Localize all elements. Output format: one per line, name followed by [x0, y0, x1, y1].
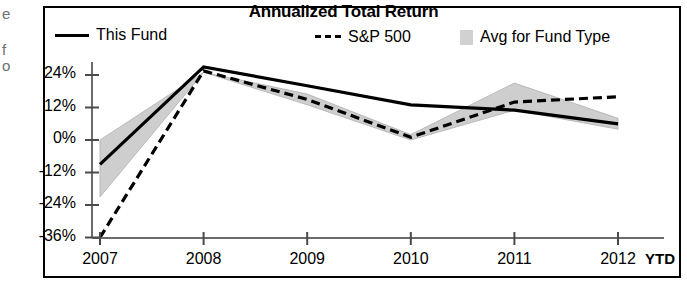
y-tick-label: -12% — [14, 162, 76, 180]
y-tick-label: 24% — [14, 64, 76, 82]
x-tick-label: 2008 — [164, 250, 244, 268]
y-tick-label: 12% — [14, 97, 76, 115]
ytd-label: YTD — [645, 250, 675, 267]
x-tick-label: 2007 — [60, 250, 140, 268]
y-tick-label: -36% — [14, 227, 76, 245]
plot-area: 24%12%0%-12%-24%-36% 2007200820092010201… — [0, 0, 687, 291]
x-tick-label: 2009 — [267, 250, 347, 268]
x-tick-label: 2010 — [371, 250, 451, 268]
chart-canvas — [0, 0, 687, 291]
y-tick-label: 0% — [14, 129, 76, 147]
y-tick-label: -24% — [14, 194, 76, 212]
x-tick-label: 2011 — [474, 250, 554, 268]
